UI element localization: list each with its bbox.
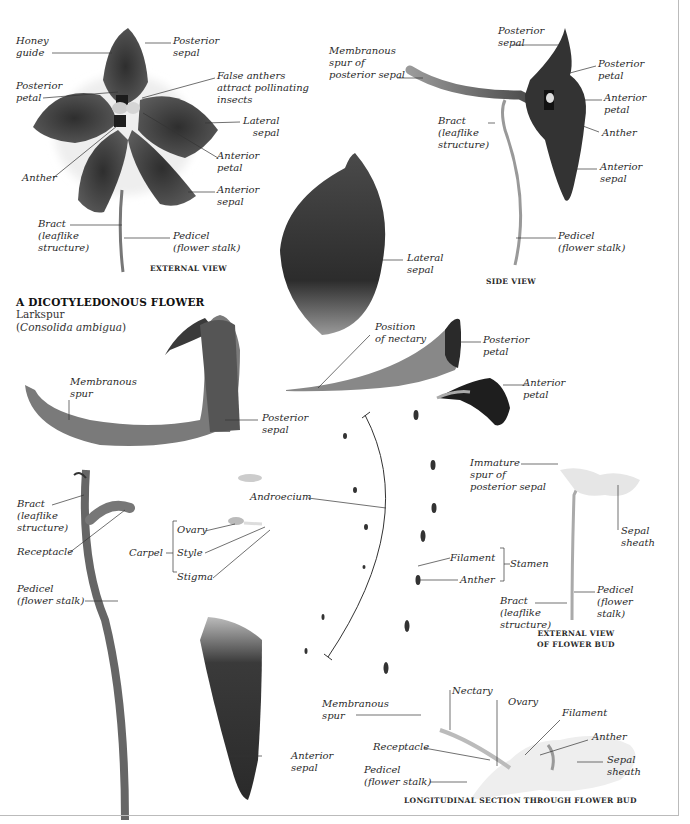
anterior-sepal-specimen	[200, 617, 262, 800]
label-bud-sepal-sheath: Sepal sheath	[621, 525, 655, 549]
caption-section-view: LONGITUDINAL SECTION THROUGH FLOWER BUD	[404, 795, 637, 806]
label-section-sepal-sheath: Sepal sheath	[607, 754, 641, 778]
label-androecium: Androecium	[250, 491, 312, 503]
label-false-anthers: False anthers attract pollinating insect…	[217, 70, 309, 106]
label-side-posterior-petal: Posterior petal	[598, 58, 644, 82]
diagram-title: A DICOTYLEDONOUS FLOWER Larkspur (Consol…	[16, 296, 205, 334]
label-anterior-petal-dissected: Anterior petal	[523, 377, 565, 401]
label-immature-spur: Immature spur of posterior sepal	[470, 457, 546, 493]
label-style: Style	[177, 547, 203, 559]
label-section-receptacle: Receptacle	[373, 741, 429, 753]
caption-external-view: EXTERNAL VIEW	[150, 263, 227, 274]
label-receptacle: Receptacle	[17, 546, 73, 558]
anterior-petal-specimen	[437, 378, 510, 425]
label-section-filament: Filament	[562, 707, 607, 719]
posterior-petal-specimen	[286, 319, 461, 391]
label-stigma: Stigma	[177, 571, 213, 583]
frame-bottom-rule	[0, 815, 679, 816]
label-anterior-sepal: Anterior sepal	[217, 184, 259, 208]
label-side-pedicel: Pedicel (flower stalk)	[558, 230, 625, 254]
label-pedicel-dissected: Pedicel (flower stalk)	[17, 583, 84, 607]
label-filament: Filament	[450, 552, 495, 564]
label-position-of-nectary: Position of nectary	[375, 321, 426, 345]
label-posterior-petal: Posterior petal	[16, 80, 62, 104]
label-side-posterior-sepal: Posterior sepal	[498, 25, 544, 49]
label-pedicel: Pedicel (flower stalk)	[173, 230, 240, 254]
label-bract: Bract (leaflike structure)	[38, 218, 89, 254]
label-section-ovary: Ovary	[508, 696, 538, 708]
label-bract-dissected: Bract (leaflike structure)	[17, 498, 68, 534]
label-ovary: Ovary	[177, 524, 207, 536]
label-lateral-sepal: Lateral sepal	[243, 115, 279, 139]
label-anther: Anther	[22, 172, 57, 184]
label-posterior-petal-dissected: Posterior petal	[483, 334, 529, 358]
caption-side-view: SIDE VIEW	[486, 276, 536, 287]
label-membranous-spur: Membranous spur	[70, 376, 137, 400]
label-anterior-sepal-dissected: Anterior sepal	[291, 750, 333, 774]
label-posterior-sepal: Posterior sepal	[173, 35, 219, 59]
label-anterior-petal: Anterior petal	[217, 150, 259, 174]
label-side-anther: Anther	[602, 127, 637, 139]
label-bud-bract: Bract (leaflike structure)	[500, 595, 551, 631]
label-anther-dissected: Anther	[460, 574, 495, 586]
lateral-sepal-specimen	[280, 153, 385, 335]
label-lateral-sepal-dissected: Lateral sepal	[407, 252, 443, 276]
label-carpel: Carpel	[129, 547, 163, 559]
label-side-anterior-sepal: Anterior sepal	[600, 161, 642, 185]
label-section-pedicel: Pedicel (flower stalk)	[364, 764, 431, 788]
androecium-stamens	[305, 410, 437, 674]
label-section-anther: Anther	[592, 731, 627, 743]
label-posterior-sepal-dissected: Posterior sepal	[262, 412, 308, 436]
label-stamen: Stamen	[510, 558, 549, 570]
caption-bud-view: EXTERNAL VIEW OF FLOWER BUD	[537, 628, 615, 650]
label-side-anterior-petal: Anterior petal	[604, 92, 646, 116]
label-side-membranous-spur: Membranous spur of posterior sepal	[329, 45, 405, 81]
pedicel-receptacle-specimen	[74, 470, 130, 820]
label-section-membranous-spur: Membranous spur	[322, 698, 389, 722]
label-side-bract: Bract (leaflike structure)	[438, 115, 489, 151]
frame-right-rule	[678, 0, 679, 816]
title-scientific-name: (Consolida ambigua)	[16, 321, 205, 334]
title-common-name: Larkspur	[16, 308, 205, 321]
label-bud-pedicel: Pedicel (flower stalk)	[597, 584, 634, 620]
title-heading: A DICOTYLEDONOUS FLOWER	[16, 296, 205, 308]
label-section-nectary: Nectary	[452, 685, 493, 697]
label-honey-guide: Honey guide	[16, 35, 49, 59]
